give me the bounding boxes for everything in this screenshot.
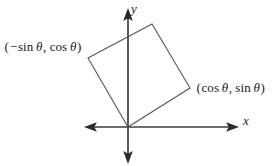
left-label-close-paren: ) (76, 39, 81, 54)
rotated-square-figure: (−sin θ, cos θ) (cos θ, sin θ) y x (0, 0, 272, 166)
left-label-comma: , (43, 39, 47, 54)
left-label-theta-1: θ (36, 39, 43, 54)
left-label-cos: cos (50, 39, 68, 54)
vertex-label-cos-sin: (cos θ, sin θ) (196, 81, 265, 94)
y-axis-label: y (131, 2, 137, 15)
left-label-minus-sign: − (9, 39, 17, 54)
rotated-unit-square (88, 24, 190, 127)
right-label-close-paren: ) (260, 80, 265, 95)
vertex-label-minus-sin-cos: (−sin θ, cos θ) (4, 40, 82, 53)
right-label-comma: , (228, 80, 232, 95)
right-label-sin: sin (235, 80, 250, 95)
right-label-cos: cos (201, 80, 219, 95)
left-label-sin: sin (18, 39, 33, 54)
x-axis-label: x (243, 114, 249, 127)
